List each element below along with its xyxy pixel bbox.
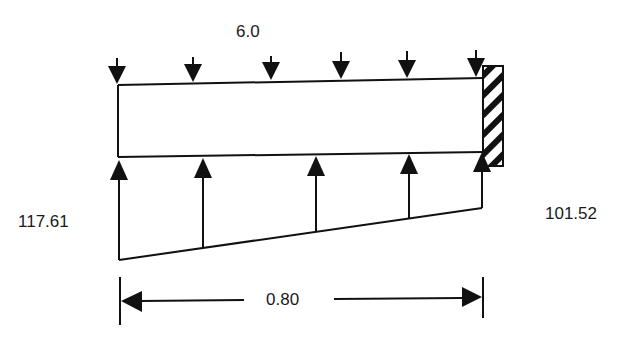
- down-arrow-icon: [398, 51, 416, 78]
- right-reaction-label: 101.52: [545, 204, 597, 224]
- up-arrow-icon: [194, 158, 212, 178]
- down-arrow-icon: [332, 52, 350, 79]
- left-arrow-icon: [121, 291, 142, 312]
- left-reaction-label: 117.61: [18, 212, 69, 232]
- beam-diagram: [0, 0, 625, 346]
- down-arrow-icon: [108, 58, 126, 84]
- dimension-label: 0.80: [266, 290, 299, 310]
- distributed-load-label: 6.0: [236, 22, 260, 42]
- down-arrow-icon: [262, 56, 280, 80]
- down-arrow-icon: [184, 57, 202, 82]
- reaction-load-diagram: [110, 152, 491, 260]
- up-arrow-icon: [307, 156, 325, 176]
- beam: [118, 78, 483, 157]
- up-arrow-icon: [400, 154, 418, 174]
- right-arrow-icon: [462, 287, 482, 307]
- dimension-line: [120, 277, 483, 325]
- up-arrow-icon: [110, 160, 128, 180]
- fixed-support-icon: [483, 66, 503, 166]
